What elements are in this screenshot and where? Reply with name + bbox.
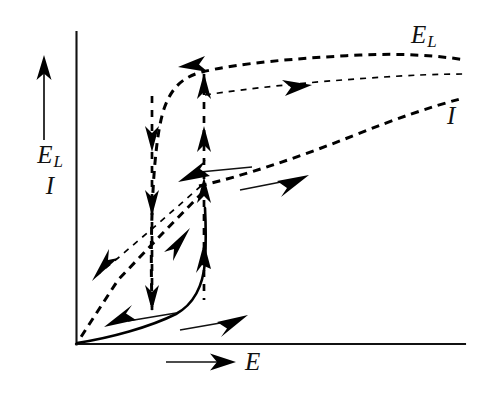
i-branch [199,99,460,186]
arrow-down-left-diagonal [92,249,118,281]
x-axis-direction-arrow [166,354,236,371]
arrow-up-right-vertical-low [197,177,211,203]
arrow-up-right-diagonal [164,228,190,261]
y-axis-label-i: I [22,173,78,198]
arrow-left-plateau [178,56,208,72]
arrow-down-left-vertical-mid [145,190,159,216]
arrow-left-middle [178,160,252,182]
left-vertical-transition [145,96,159,311]
axes-group [76,32,465,345]
plateau-secondary-dashed [205,74,466,95]
return-diagonal-lower [79,192,203,340]
arrow-right-plateau [282,80,312,96]
arrow-left-bottom [104,305,176,327]
y-axis-direction-arrow [37,55,52,140]
curve-label-el: EL [411,22,437,50]
arrow-right-bottom [180,315,248,337]
hysteresis-figure: EL I EL I E [0,0,486,395]
curve-label-i: I [447,103,455,128]
x-axis-label: E [245,349,260,374]
y-axis-label-el-subscript: L [52,152,62,171]
y-axis-label: EL I [22,142,78,198]
arrow-right-middle [240,175,309,197]
y-axis-label-el: EL [37,141,63,168]
arrow-up-right-vertical-top [197,73,211,99]
curve-label-el-subscript: L [426,32,436,51]
